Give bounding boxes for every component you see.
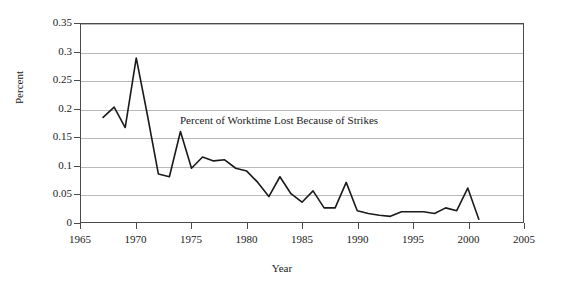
y-axis-tick-label: 0.2 [8, 103, 72, 114]
y-axis-tick-label: 0 [8, 217, 72, 228]
x-axis-tick-label: 2005 [494, 233, 554, 245]
x-axis-tick [302, 223, 303, 229]
x-axis-tick-label: 1980 [217, 233, 277, 245]
y-axis-tick-label: 0.3 [8, 46, 72, 57]
x-axis-tick [136, 223, 137, 229]
x-axis-title: Year [0, 262, 564, 274]
x-axis-tick [469, 223, 470, 229]
x-axis-tick [358, 223, 359, 229]
x-axis-tick-label: 1990 [328, 233, 388, 245]
x-axis-tick-label: 2000 [439, 233, 499, 245]
y-axis-tick-label: 0.25 [8, 74, 72, 85]
chart-figure: Percent 00.050.10.150.20.250.30.35 19651… [0, 0, 564, 290]
x-axis-tick [524, 223, 525, 229]
x-axis-tick-label: 1985 [272, 233, 332, 245]
series-annotation: Percent of Worktime Lost Because of Stri… [180, 114, 378, 126]
x-axis-tick [413, 223, 414, 229]
x-axis-tick-label: 1975 [161, 233, 221, 245]
x-axis-tick-label: 1965 [50, 233, 110, 245]
x-axis-tick [247, 223, 248, 229]
y-axis-tick-label: 0.15 [8, 131, 72, 142]
x-axis-tick [80, 223, 81, 229]
y-axis-tick-label: 0.1 [8, 160, 72, 171]
x-axis-tick-label: 1970 [106, 233, 166, 245]
x-axis-tick [191, 223, 192, 229]
x-axis-tick-label: 1995 [383, 233, 443, 245]
y-axis-tick-label: 0.35 [8, 17, 72, 28]
y-axis-tick-label: 0.05 [8, 188, 72, 199]
